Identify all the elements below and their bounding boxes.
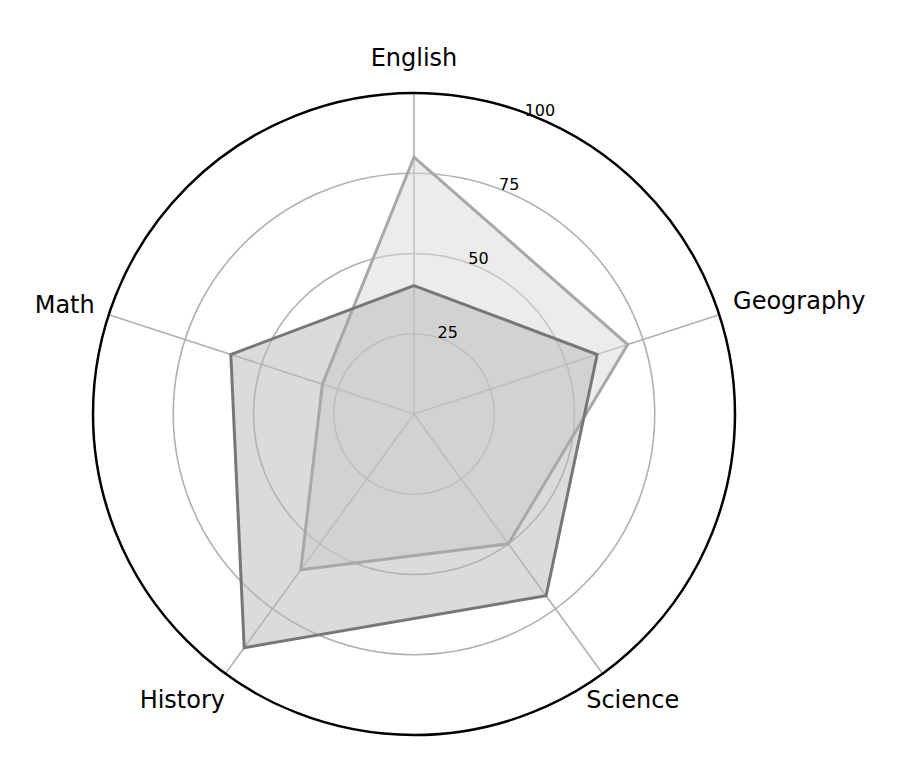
category-label-geography: Geography <box>733 287 866 315</box>
tick-label-100: 100 <box>525 101 556 120</box>
tick-label-50: 50 <box>468 249 488 268</box>
tick-label-25: 25 <box>438 323 458 342</box>
category-label-math: Math <box>35 291 95 319</box>
category-label-science: Science <box>586 686 679 714</box>
category-label-history: History <box>140 686 225 714</box>
series-fill-2 <box>231 286 597 648</box>
series-layer <box>231 157 628 648</box>
tick-label-75: 75 <box>499 175 519 194</box>
radar-chart: 255075100 EnglishGeographyScienceHistory… <box>0 0 914 775</box>
category-label-english: English <box>371 44 458 72</box>
